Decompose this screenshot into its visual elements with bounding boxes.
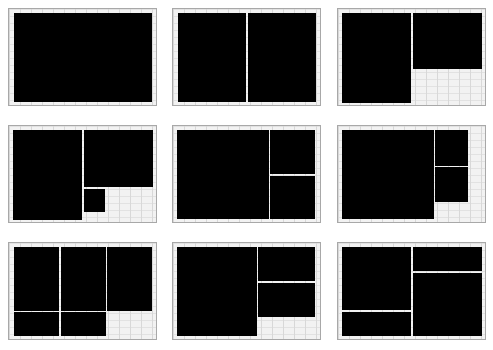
layout-pane [14,312,59,336]
layout-pane [270,176,315,219]
layout-pane [258,283,315,317]
layout-pane [14,247,59,311]
layout-pane [14,13,152,102]
layout-pane [413,273,482,336]
layout-pane [342,13,411,103]
layout-pane [435,167,468,202]
layout-pane [178,13,246,102]
layout-option-5[interactable] [172,125,321,223]
layout-pane [258,247,315,281]
layout-option-6[interactable] [337,125,486,223]
layout-pane [248,13,316,102]
layout-option-9[interactable] [337,242,486,340]
layout-pane [177,130,269,219]
layout-pane [84,189,105,212]
layout-option-7[interactable] [8,242,157,340]
layout-pane [13,130,82,220]
layout-pane [413,13,482,69]
layout-pane [61,247,106,311]
layout-pane [270,130,315,174]
layout-option-1[interactable] [8,8,157,106]
layout-pane [84,130,153,187]
layout-pane [342,247,411,310]
layout-pane [342,130,434,219]
layout-option-3[interactable] [337,8,486,106]
layout-option-4[interactable] [8,125,157,223]
layout-pane [107,247,152,311]
layout-option-2[interactable] [172,8,321,106]
layout-pane [61,312,106,336]
layout-option-8[interactable] [172,242,321,340]
layout-pane [413,247,482,271]
layout-pane [177,247,257,336]
layout-pane [435,130,468,166]
layout-pane [342,312,411,336]
